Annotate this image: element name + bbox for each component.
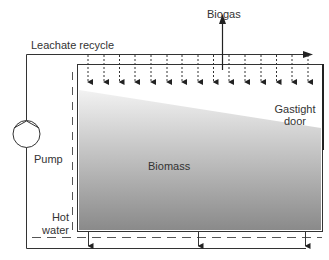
gastight-door-label: Gastight door	[270, 103, 320, 127]
drain-arrows	[89, 232, 306, 246]
biogas-label: Biogas	[207, 8, 241, 20]
leachate-recycle-label: Leachate recycle	[31, 39, 114, 51]
hot-water-label-line1: Hot	[47, 211, 69, 223]
sprinkler-arrows	[88, 55, 308, 82]
biomass-label: Biomass	[148, 160, 190, 172]
gastight-label-line1: Gastight	[270, 103, 320, 115]
pump-label: Pump	[34, 153, 63, 165]
pump-icon	[13, 121, 40, 148]
hot-water-label-line2: water	[35, 224, 69, 236]
gastight-label-line2: door	[270, 115, 320, 127]
biogas-outlet-arrow	[219, 14, 226, 70]
